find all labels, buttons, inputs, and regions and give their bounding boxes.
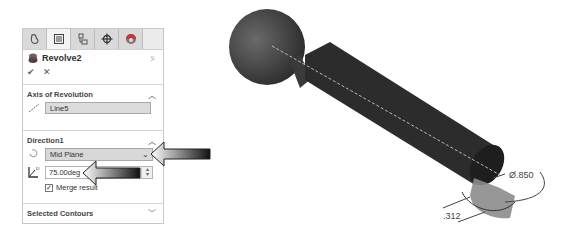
end-condition-value: Mid Plane: [50, 150, 83, 159]
axis-selection-field[interactable]: Line5: [45, 102, 151, 114]
crosshair-icon: [101, 33, 113, 45]
feature-manager-tab[interactable]: [23, 29, 47, 49]
display-manager-tab[interactable]: [119, 29, 143, 49]
selected-contours-section[interactable]: Selected Contours ﹀: [23, 203, 163, 224]
reverse-direction-icon: [28, 148, 38, 158]
section-title: Direction1: [27, 136, 64, 145]
feature-tree-icon: [29, 33, 41, 45]
property-manager-tab[interactable]: [47, 29, 71, 49]
ok-cancel-bar: ✔ ✕: [27, 67, 51, 77]
angle-value: 75.00deg: [49, 168, 80, 177]
cancel-button[interactable]: ✕: [43, 67, 51, 77]
configuration-manager-tab[interactable]: [71, 29, 95, 49]
property-list-icon: [53, 33, 65, 45]
tabs-filler: [143, 29, 163, 49]
dimxpert-manager-tab[interactable]: [95, 29, 119, 49]
callout-arrow-end-condition: [150, 141, 212, 167]
ok-button[interactable]: ✔: [27, 67, 35, 77]
section-title: Selected Contours: [27, 209, 93, 218]
svg-text:D1: D1: [36, 166, 40, 171]
ball-joint-model[interactable]: [229, 9, 515, 218]
chevron-down-icon: ⌄: [142, 149, 149, 160]
chevron-down-icon[interactable]: ﹀: [148, 207, 156, 218]
section-title: Axis of Revolution: [27, 90, 93, 99]
collapse-caret-icon[interactable]: ︿: [148, 89, 156, 100]
graphics-viewport[interactable]: Ø.850 .312: [220, 0, 561, 235]
configuration-icon: [77, 33, 89, 45]
angle-icon: D1: [27, 166, 40, 178]
pushpin-icon[interactable]: ⍩: [150, 54, 155, 64]
revolve-feature-icon: [27, 52, 39, 64]
axis-of-revolution-section: Axis of Revolution ︿ Line5: [23, 84, 163, 117]
merge-result-checkbox[interactable]: ✓: [45, 184, 53, 192]
feature-title: Revolve2: [42, 53, 82, 63]
property-manager-panel: Revolve2 ⍩ ✔ ✕ Axis of Revolution ︿ Line…: [22, 28, 164, 224]
axis-line-icon: [28, 103, 40, 113]
appearance-sphere-icon: [125, 33, 137, 45]
feature-header: Revolve2: [27, 52, 82, 64]
offset-label: .312: [443, 211, 461, 221]
diameter-label: Ø.850: [509, 170, 534, 180]
manager-tabs: [23, 29, 163, 50]
callout-arrow-angle: [82, 160, 142, 186]
spinner-arrows[interactable]: ▴▾: [141, 167, 152, 178]
